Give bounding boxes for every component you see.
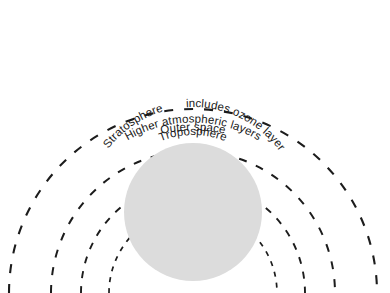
atmosphere-svg: Outer space Higher atmospheric layers St… (0, 0, 390, 293)
earth-sphere (124, 143, 262, 281)
atmosphere-diagram: Outer space Higher atmospheric layers St… (0, 0, 390, 293)
